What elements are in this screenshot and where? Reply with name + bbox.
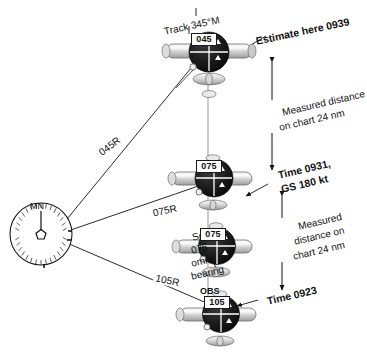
obs-box-aircraft-lower-middle: 075: [200, 228, 226, 241]
time-0931-leader: [246, 184, 268, 196]
radial-075-line: [62, 181, 213, 233]
obs-box-aircraft-upper-middle: 075: [196, 160, 222, 173]
time-0923-leader: [237, 300, 258, 306]
vor-station-rose: [10, 203, 72, 268]
obs-box-aircraft-top: 045: [191, 33, 217, 46]
vor-navigation-diagram: Track 345°M Estimate here 0939 Measured …: [0, 0, 367, 361]
obs-box-aircraft-bottom: 105: [204, 296, 230, 309]
magnetic-north-label: MN: [30, 201, 44, 211]
obs-prefix-aircraft-bottom: OBS: [200, 286, 220, 296]
